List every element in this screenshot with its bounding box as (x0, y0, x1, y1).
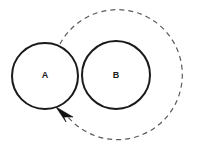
diagram-svg-surface: A B (0, 0, 198, 151)
geometry-figure-canvas: A B (0, 0, 198, 151)
circle-a-label: A (42, 70, 49, 80)
circle-b-label: B (113, 70, 120, 80)
